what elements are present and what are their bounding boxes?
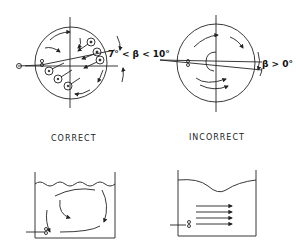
incorrect-section-view xyxy=(170,170,256,236)
angle-correct-label: 7° < β < 10° xyxy=(108,49,170,59)
correct-label: CORRECT xyxy=(51,134,97,143)
angle-incorrect-label: β > 0° xyxy=(262,59,293,69)
incorrect-label: INCORRECT xyxy=(189,133,245,142)
incorrect-plan-view xyxy=(160,15,262,112)
correct-section-view xyxy=(26,172,115,238)
diagram-canvas xyxy=(0,0,296,244)
correct-plan-view xyxy=(17,17,124,108)
